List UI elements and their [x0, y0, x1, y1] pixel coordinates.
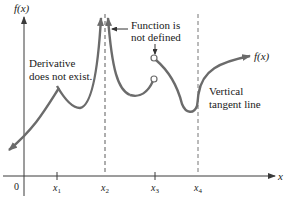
curve-left-branch	[9, 88, 59, 150]
annotation-vertical-line1: Vertical	[209, 85, 243, 97]
annotation-derivative-line2: does not exist.	[29, 70, 92, 82]
annotation-undefined-line2: not defined	[131, 31, 181, 43]
open-point-upper	[151, 55, 157, 61]
curve-asymptote-right-branch	[108, 18, 130, 95]
annotation-vertical-line2: tangent line	[209, 98, 261, 110]
tick-label-x3: x3	[150, 182, 159, 195]
y-axis-label: f(x)	[14, 2, 30, 15]
curve-to-lower-open-point	[130, 81, 153, 96]
function-diagram: f(x) x 0 f(x) x1 x2 x3 x4 Derivative doe…	[0, 0, 285, 206]
origin-label: 0	[14, 181, 19, 192]
curve-label: f(x)	[254, 50, 270, 63]
annotation-derivative-line1: Derivative	[29, 57, 76, 69]
tick-label-x2: x2	[100, 182, 109, 195]
open-point-lower	[151, 76, 157, 82]
tick-label-x1: x1	[52, 182, 61, 195]
tick-label-x4: x4	[193, 182, 202, 195]
annotation-undefined-line1: Function is	[131, 19, 180, 31]
x-axis-label: x	[277, 170, 283, 182]
